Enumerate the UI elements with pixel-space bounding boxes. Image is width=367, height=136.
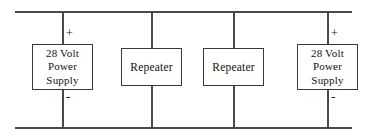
positive-rail bbox=[15, 11, 352, 13]
left-power-supply-line-1: 28 Volt bbox=[46, 47, 79, 61]
repeater-1-label: Repeater bbox=[130, 60, 172, 74]
left-power-supply-box: 28 Volt Power Supply bbox=[32, 44, 93, 90]
right-supply-minus-sign: - bbox=[331, 92, 335, 102]
right-supply-plus-sign: + bbox=[331, 28, 338, 38]
right-power-supply-line-2: Power bbox=[313, 60, 342, 74]
circuit-diagram: 28 Volt Power Supply Repeater Repeater 2… bbox=[0, 0, 367, 136]
right-power-supply-box: 28 Volt Power Supply bbox=[297, 44, 358, 90]
left-power-supply-line-2: Power bbox=[48, 60, 77, 74]
left-supply-plus-sign: + bbox=[66, 28, 73, 38]
left-power-supply-line-3: Supply bbox=[46, 74, 78, 88]
negative-rail bbox=[15, 127, 352, 129]
repeater-1-box: Repeater bbox=[121, 48, 182, 86]
left-supply-minus-sign: - bbox=[66, 92, 70, 102]
right-power-supply-line-1: 28 Volt bbox=[311, 47, 344, 61]
right-power-supply-line-3: Supply bbox=[311, 74, 343, 88]
repeater-2-label: Repeater bbox=[212, 60, 254, 74]
repeater-2-box: Repeater bbox=[203, 48, 264, 86]
